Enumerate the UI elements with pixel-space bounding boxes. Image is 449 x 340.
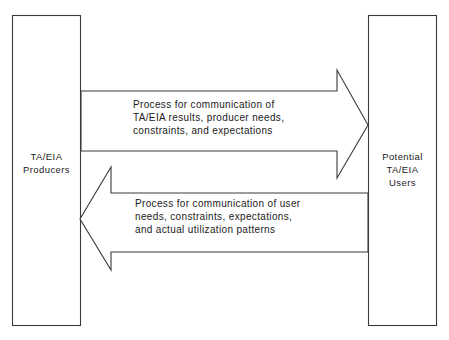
node-label-producers: TA/EIA Producers <box>12 150 81 176</box>
diagram-canvas: TA/EIA Producers Potential TA/EIA Users … <box>0 0 449 340</box>
flow-label-users-to-producers: Process for communication of user needs,… <box>135 197 335 236</box>
node-label-users: Potential TA/EIA Users <box>368 150 437 189</box>
flow-label-producers-to-users: Process for communication of TA/EIA resu… <box>133 98 333 137</box>
